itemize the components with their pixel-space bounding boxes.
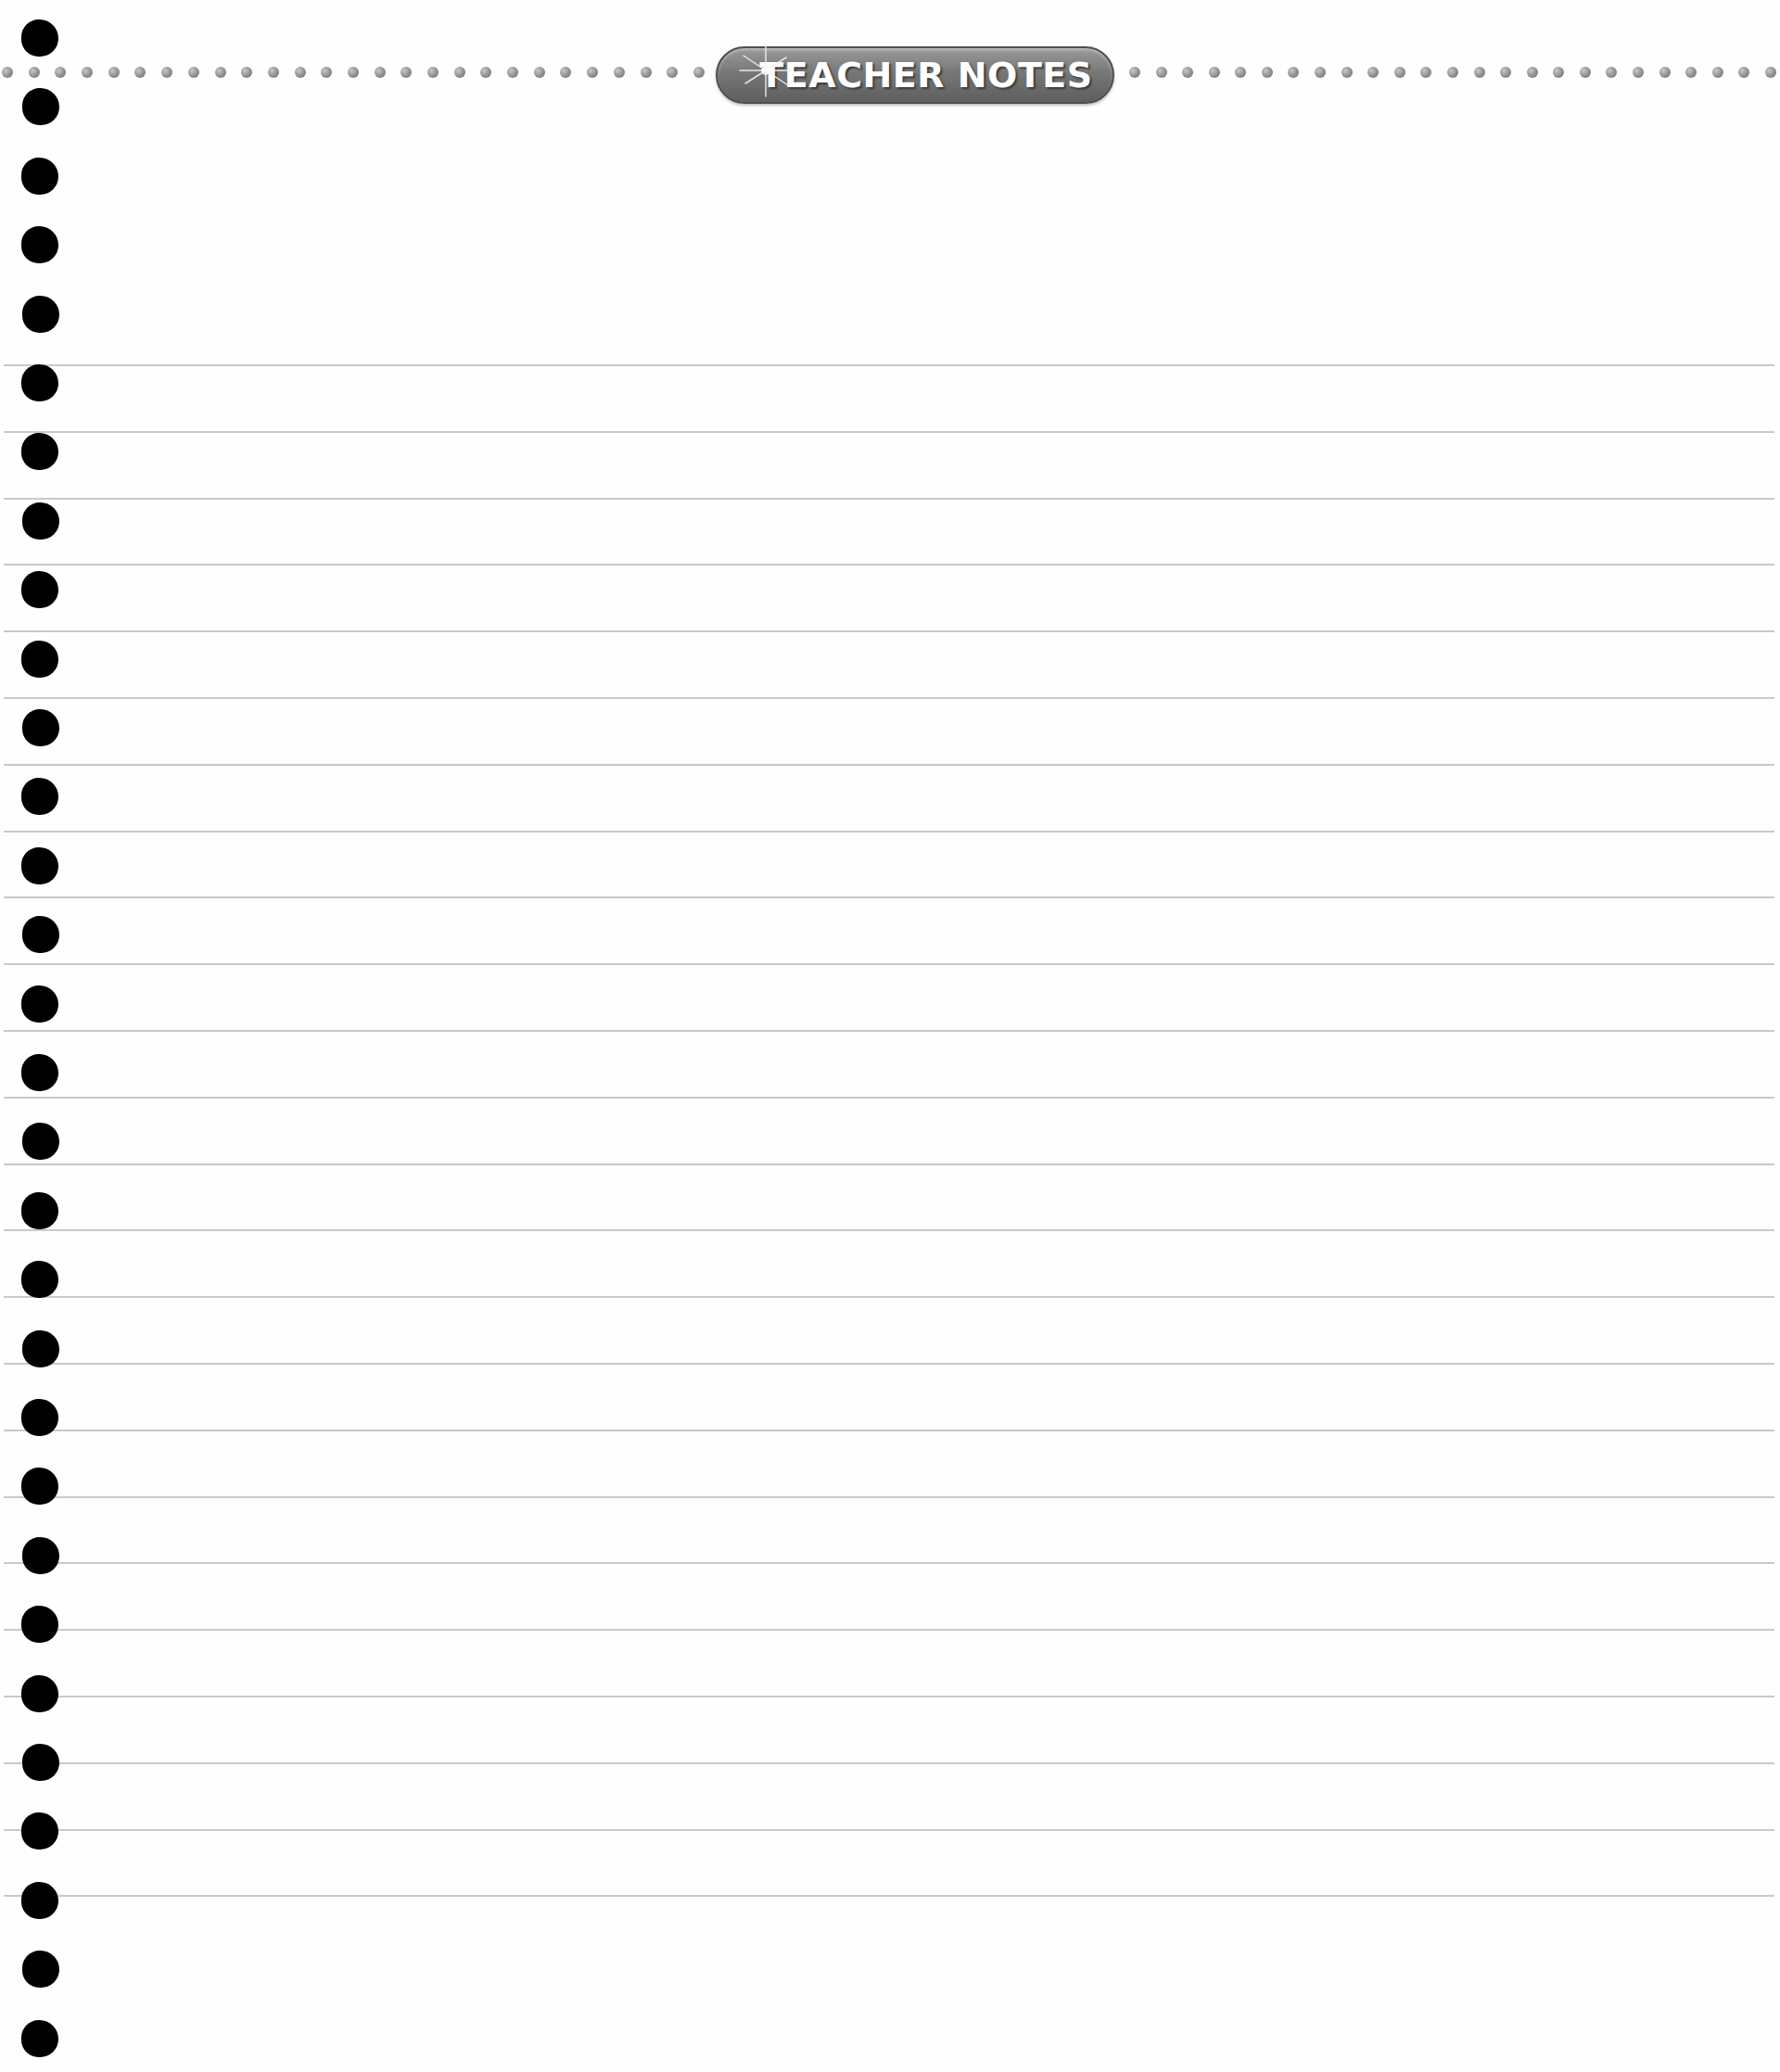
binder-hole [21, 1261, 58, 1298]
divider-dot [427, 67, 439, 78]
binder-hole [22, 709, 59, 746]
divider-dot [1580, 67, 1591, 78]
divider-dot [1420, 67, 1431, 78]
divider-dot [1341, 67, 1353, 78]
ruled-line [4, 1496, 1774, 1498]
divider-dot [693, 67, 705, 78]
divider-dot [1394, 67, 1405, 78]
ruled-line [4, 1895, 1774, 1897]
dotted-divider-right [1129, 66, 1776, 79]
divider-dot [108, 67, 120, 78]
divider-dot [1553, 67, 1564, 78]
ruled-line [4, 1562, 1774, 1564]
divider-dot [134, 67, 146, 78]
divider-dot [1262, 67, 1273, 78]
divider-dot [348, 67, 359, 78]
binder-hole [21, 1192, 58, 1229]
ruled-line [4, 364, 1774, 366]
binder-hole [22, 502, 59, 540]
ruled-line [4, 564, 1774, 566]
binder-hole [22, 88, 59, 125]
divider-dot [1447, 67, 1458, 78]
divider-dot [614, 67, 625, 78]
ruled-line [4, 963, 1774, 965]
ruled-line [4, 1629, 1774, 1631]
binder-hole [22, 1951, 59, 1988]
divider-dot [1765, 67, 1776, 78]
divider-dot [1659, 67, 1671, 78]
binder-hole [21, 985, 58, 1023]
binder-hole [22, 1330, 59, 1367]
divider-dot [1209, 67, 1220, 78]
divider-dot [215, 67, 226, 78]
divider-dot [1712, 67, 1723, 78]
ruled-line [4, 1163, 1774, 1165]
ruled-line [4, 1296, 1774, 1298]
divider-dot [1182, 67, 1193, 78]
binder-hole [22, 1123, 59, 1160]
divider-dot [1685, 67, 1697, 78]
divider-dot [375, 67, 386, 78]
divider-dot [161, 67, 172, 78]
divider-dot [82, 67, 93, 78]
divider-dot [1606, 67, 1617, 78]
ruled-line [4, 1363, 1774, 1365]
divider-dot [641, 67, 652, 78]
ruled-line [4, 1430, 1774, 1431]
ruled-line [4, 764, 1774, 766]
divider-dot [454, 67, 465, 78]
binder-hole [21, 641, 58, 678]
binder-hole [21, 571, 58, 608]
divider-dot [400, 67, 412, 78]
ruled-line [4, 1030, 1774, 1032]
ruled-line [4, 1097, 1774, 1099]
divider-dot [321, 67, 332, 78]
binder-hole [21, 1606, 58, 1643]
binder-hole [21, 158, 58, 195]
binder-hole [22, 296, 59, 333]
ruled-line [4, 1762, 1774, 1764]
ruled-line [4, 431, 1774, 433]
ruled-line [4, 1229, 1774, 1231]
divider-dot [268, 67, 279, 78]
divider-dot [1315, 67, 1326, 78]
teacher-notes-banner: TEACHER NOTES [716, 46, 1114, 104]
binder-hole [21, 433, 58, 470]
binder-hole [21, 226, 58, 263]
divider-dot [1156, 67, 1167, 78]
divider-dot [587, 67, 598, 78]
divider-dot [1129, 67, 1140, 78]
divider-dot [241, 67, 252, 78]
binder-hole [21, 847, 58, 884]
binder-hole [21, 2020, 58, 2057]
sparkle-icon [738, 43, 794, 98]
divider-dot [507, 67, 518, 78]
ruled-line [4, 630, 1774, 632]
binder-hole [22, 1537, 59, 1574]
divider-dot [1500, 67, 1511, 78]
divider-dot [188, 67, 199, 78]
binder-hole [22, 1744, 59, 1781]
ruled-line [4, 831, 1774, 833]
binder-hole [21, 1812, 58, 1850]
divider-dot [55, 67, 66, 78]
divider-dot [2, 67, 13, 78]
ruled-line [4, 896, 1774, 898]
divider-dot [295, 67, 306, 78]
divider-dot [1738, 67, 1749, 78]
divider-dot [1474, 67, 1485, 78]
divider-dot [1288, 67, 1299, 78]
ruled-line [4, 1696, 1774, 1697]
binder-hole [21, 1054, 58, 1091]
binder-hole [21, 778, 58, 815]
binder-hole [21, 19, 58, 57]
divider-dot [1527, 67, 1538, 78]
binder-hole [21, 1675, 58, 1712]
divider-dot [560, 67, 571, 78]
divider-dot [667, 67, 678, 78]
divider-dot [534, 67, 545, 78]
binder-hole [21, 1468, 58, 1505]
binder-hole [21, 364, 58, 401]
dotted-divider-left [2, 66, 705, 79]
divider-dot [1235, 67, 1246, 78]
